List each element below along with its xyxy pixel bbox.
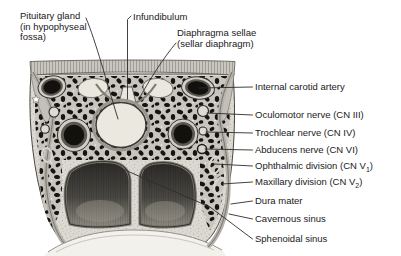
sinus-haze-left — [76, 200, 124, 222]
label-text: Trochlear nerve (CN IV) — [255, 127, 355, 138]
dural-roof-band — [30, 60, 235, 75]
label-infundibulum-text: Infundibulum — [133, 12, 187, 23]
label-pituitary-gland: Pituitary gland (in hypophyseal fossa) — [20, 11, 87, 43]
label-text: Sphenoidal sinus — [255, 233, 327, 244]
label-ophthalmic-division: Ophthalmic division (CN V1) — [255, 160, 373, 175]
internal-carotid-artery-right-lower — [168, 119, 198, 149]
label-text: Cavernous sinus — [255, 213, 326, 224]
label-text: Oculomotor nerve (CN III) — [255, 109, 364, 120]
oculomotor-nerve-shape — [198, 106, 209, 117]
label-dura-mater: Dura mater — [255, 195, 303, 210]
label-diaphragma-line1: Diaphragma sellae — [177, 28, 256, 39]
figure-canvas: Pituitary gland (in hypophyseal fossa) I… — [0, 0, 401, 256]
label-text: Dura mater — [255, 195, 303, 206]
pituitary-gland-shape — [96, 103, 146, 148]
label-infundibulum: Infundibulum — [133, 12, 187, 23]
label-abducens-nerve: Abducens nerve (CN VI) — [255, 144, 358, 159]
label-text: Internal carotid artery — [255, 81, 345, 92]
label-pituitary-line1: Pituitary gland — [20, 11, 87, 22]
label-cavernous-sinus: Cavernous sinus — [255, 213, 326, 228]
left-nerve-ring-1 — [49, 107, 59, 117]
label-text: Maxillary division (CN V — [255, 176, 355, 187]
leader-dura-mater — [231, 201, 253, 204]
sinus-haze-right — [145, 201, 185, 221]
left-nerve-ring-2 — [41, 125, 50, 134]
label-diaphragma-sellae: Diaphragma sellae (sellar diaphragm) — [177, 28, 256, 49]
trochlear-nerve-shape — [199, 127, 207, 135]
label-text: Ophthalmic division (CN V — [255, 160, 366, 171]
label-internal-carotid-artery: Internal carotid artery — [255, 81, 345, 96]
internal-carotid-artery-left-lower — [58, 119, 91, 152]
label-pituitary-line3: fossa) — [20, 32, 87, 43]
label-sphenoidal-sinus: Sphenoidal sinus — [255, 233, 327, 248]
label-trochlear-nerve: Trochlear nerve (CN IV) — [255, 127, 355, 142]
label-text: Abducens nerve (CN VI) — [255, 144, 358, 155]
label-maxillary-division: Maxillary division (CN V2) — [255, 176, 362, 191]
leader-cavernous-sinus — [229, 214, 253, 219]
label-oculomotor-nerve: Oculomotor nerve (CN III) — [255, 109, 364, 124]
label-diaphragma-line2: (sellar diaphragm) — [177, 39, 256, 50]
